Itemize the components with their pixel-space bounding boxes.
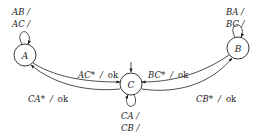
self-loop-a-label-2: AC /	[11, 19, 31, 29]
self-loop-b-label-2: BC /	[225, 19, 246, 29]
edge-c-to-a-label: CA*/ok	[28, 94, 69, 104]
edge-c-to-b-label: CB*/ok	[196, 94, 237, 104]
state-node-b: B	[227, 37, 249, 59]
self-loop-a-label-1: AB /	[11, 7, 31, 17]
state-a-label: A	[21, 51, 29, 61]
state-b-label: B	[234, 44, 242, 54]
state-node-a: A	[14, 44, 36, 66]
edge-b-to-c-label: BC*/ok	[147, 70, 189, 80]
state-node-c: C	[120, 73, 142, 95]
self-loop-c-label-2: CB /	[121, 123, 140, 133]
self-loop-c-arrow	[127, 95, 136, 106]
self-loop-c-label-1: CA /	[121, 111, 140, 121]
state-c-label: C	[128, 80, 135, 90]
state-diagram: A AB / AC / B BA / BC / C CA / CB / AC*/…	[0, 0, 260, 135]
self-loop-b-label-1: BA /	[225, 7, 245, 17]
self-loop-a-arrow	[20, 32, 30, 44]
edge-a-to-c-label: AC*/ok	[77, 70, 119, 80]
